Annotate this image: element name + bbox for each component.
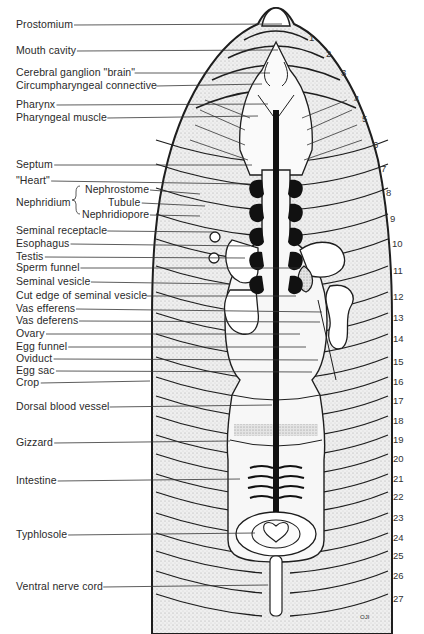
segment-number: 22 (393, 492, 404, 502)
label-egg-funnel: Egg funnel (16, 340, 67, 352)
segment-number: 15 (393, 357, 404, 367)
label-cut-edge-seminal-vesicle: Cut edge of seminal vesicle (16, 289, 147, 301)
label-pharyngeal-muscle: Pharyngeal muscle (16, 111, 107, 123)
label-nephridium: Nephridium (16, 196, 71, 208)
segment-number: 13 (393, 313, 404, 323)
ventral-nerve-cord (270, 556, 282, 616)
segment-number: 12 (393, 292, 404, 302)
label-seminal-receptacle: Seminal receptacle (16, 224, 107, 236)
label-esophagus: Esophagus (16, 237, 69, 249)
label-mouth-cavity: Mouth cavity (16, 44, 76, 56)
segment-number: 3 (341, 68, 346, 78)
label-circumpharyngeal-connective: Circumpharyngeal connective (16, 79, 157, 91)
label-seminal-vesicle: Seminal vesicle (16, 275, 90, 287)
nephridium-brace (72, 186, 80, 214)
segment-number: 6 (373, 140, 378, 150)
segment-number: 14 (393, 334, 404, 344)
label-intestine: Intestine (16, 474, 57, 486)
segment-number: 19 (393, 435, 404, 445)
label-ventral-nerve-cord: Ventral nerve cord (16, 580, 103, 592)
earthworm-diagram: ProstomiumMouth cavityCerebral ganglion … (0, 0, 424, 634)
label-heart: "Heart" (16, 174, 50, 186)
segment-number: 10 (392, 239, 403, 249)
segment-number: 11 (393, 266, 403, 276)
segment-number: 9 (390, 214, 395, 224)
segment-number: 21 (393, 474, 404, 484)
label-vas-efferens: Vas efferens (16, 302, 75, 314)
artist-signature: OJI (360, 614, 369, 620)
segment-number: 17 (393, 396, 404, 406)
dorsal-blood-vessel (273, 110, 279, 512)
segment-number: 25 (393, 551, 404, 561)
segment-number: 7 (381, 164, 386, 174)
label-nephrostome: Nephrostome (85, 183, 149, 195)
segment-number: 5 (362, 114, 367, 124)
label-septum: Septum (16, 158, 53, 170)
segment-number: 20 (393, 454, 404, 464)
label-typhlosole: Typhlosole (16, 528, 67, 540)
label-sperm-funnel: Sperm funnel (16, 261, 80, 273)
label-egg-sac: Egg sac (16, 364, 55, 376)
segment-number: 27 (393, 594, 404, 604)
segment-number: 4 (354, 94, 359, 104)
label-gizzard: Gizzard (16, 436, 53, 448)
segment-number: 8 (386, 188, 391, 198)
segment-number: 18 (393, 416, 404, 426)
label-pharynx: Pharynx (16, 98, 55, 110)
segment-number: 1 (309, 33, 314, 43)
label-dorsal-blood-vessel: Dorsal blood vessel (16, 400, 110, 412)
label-tubule: Tubule (108, 196, 140, 208)
segment-number: 23 (393, 513, 404, 523)
label-prostomium: Prostomium (16, 18, 73, 30)
label-crop: Crop (16, 376, 39, 388)
segment-number: 2 (326, 49, 331, 59)
label-oviduct: Oviduct (16, 352, 52, 364)
segment-number: 26 (393, 571, 404, 581)
label-vas-deferens: Vas deferens (16, 314, 78, 326)
label-nephridiopore: Nephridiopore (82, 208, 149, 220)
label-cerebral-ganglion: Cerebral ganglion "brain" (16, 66, 135, 78)
segment-number: 24 (393, 533, 404, 543)
segment-number: 16 (393, 377, 404, 387)
label-ovary: Ovary (16, 327, 45, 339)
